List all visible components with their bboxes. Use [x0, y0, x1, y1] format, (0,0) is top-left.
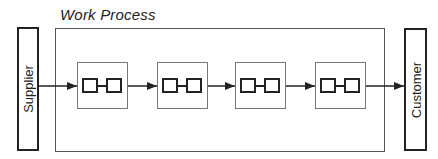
flow-arrows [0, 0, 438, 159]
